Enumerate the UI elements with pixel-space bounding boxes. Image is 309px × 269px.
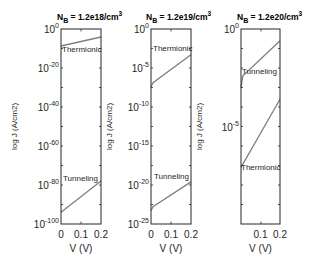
annotation-thermionic: Thermionic [241,163,281,172]
y-tick-label: 100 [224,22,239,35]
axes-box [61,29,101,224]
y-tick-label: 100 [44,22,59,35]
series-thermionic [241,99,280,167]
subplot-title: NB = 1.2e20/cm3 [237,10,303,24]
y-axis-label: log J (A/cm2) [195,103,204,150]
y-tick-label: 10-5 [132,61,149,74]
subplot-3: 10010-50.10.2V (V)log J (A/cm2)NB = 1.2e… [195,10,303,254]
subplot-title: NB = 1.2e19/cm3 [146,10,212,24]
x-tick-label: 0 [58,229,64,240]
annotation-thermionic: Thermionic [62,45,102,54]
y-tick-label: 10-20 [38,61,59,74]
x-axis-label: V (V) [160,243,183,254]
x-tick-label: 0 [148,229,154,240]
x-axis-label: V (V) [249,243,272,254]
y-tick-label: 10-60 [38,139,59,152]
y-tick-label: 100 [134,22,149,35]
y-tick-label: 10-15 [128,139,149,152]
annotation-tunneling: Tunneling [242,67,277,76]
series-tunneling [61,181,101,212]
x-tick-label: 0.2 [184,229,198,240]
y-tick-label: 10-10 [128,100,149,113]
figure: 10010-2010-4010-6010-8010-10000.10.2V (V… [0,0,309,269]
y-tick-label: 10-25 [128,217,149,230]
annotation-tunneling: Tunneling [63,174,98,183]
series-thermionic [151,55,191,87]
x-tick-label: 0.1 [164,229,178,240]
y-axis-label: log J (A/cm2) [105,103,114,150]
y-tick-label: 10-40 [38,100,59,113]
y-axis-label: log J (A/cm2) [10,103,19,150]
series-tunneling [241,41,280,88]
y-tick-label: 10-80 [38,178,59,191]
y-tick-label: 10-100 [34,217,59,230]
annotation-thermionic: Thermionic [153,44,193,53]
y-tick-label: 10-5 [222,120,239,133]
y-tick-label: 10-20 [128,178,149,191]
x-tick-label: 0.2 [94,229,108,240]
x-tick-label: 0.1 [254,229,268,240]
x-tick-label: 0.2 [273,229,287,240]
annotation-tunneling: Tunneling [154,172,189,181]
axes-box [241,29,280,224]
x-axis-label: V (V) [70,243,93,254]
x-tick-label: 0.1 [74,229,88,240]
series-tunneling [151,182,191,211]
subplot-title: NB = 1.2e18/cm3 [57,10,123,24]
